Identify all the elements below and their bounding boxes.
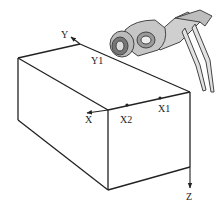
workpiece-block	[18, 44, 190, 190]
x-axis-arrow	[87, 110, 108, 113]
point-x2	[125, 103, 128, 106]
label-y-axis: Y	[61, 30, 68, 40]
y-axis-arrow	[71, 37, 80, 44]
label-x-axis: X	[85, 115, 92, 125]
label-z-axis: Z	[186, 192, 192, 202]
diagram-canvas	[0, 0, 216, 214]
point-x1	[158, 96, 161, 99]
label-x1: X1	[158, 104, 170, 114]
label-y1: Y1	[91, 56, 103, 66]
label-x2: X2	[120, 115, 132, 125]
